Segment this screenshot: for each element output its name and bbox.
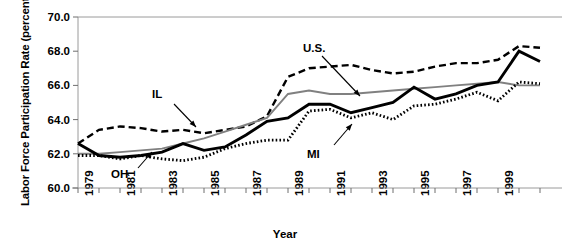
plot-area bbox=[0, 0, 570, 246]
annotation-arrow-us bbox=[322, 56, 360, 96]
series-label-oh: OH bbox=[111, 168, 128, 180]
series-label-us: U.S. bbox=[303, 42, 325, 54]
series-label-il: IL bbox=[152, 88, 162, 100]
series-line-il bbox=[78, 46, 540, 143]
series-label-mi: MI bbox=[307, 148, 320, 160]
chart-figure: Labor Force Participation Rate (percent)… bbox=[0, 0, 570, 246]
series-line-us bbox=[78, 82, 540, 154]
